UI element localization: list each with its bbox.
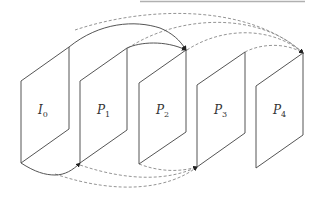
frame-reference-diagram: I0 P1 P2 P3 P4 xyxy=(0,0,318,206)
frame-P4: P4 xyxy=(256,53,303,168)
frame-P2: P2 xyxy=(139,50,186,164)
frame-I0: I0 xyxy=(21,47,69,163)
frame-P3: P3 xyxy=(197,52,245,167)
frame-P1: P1 xyxy=(80,48,127,163)
